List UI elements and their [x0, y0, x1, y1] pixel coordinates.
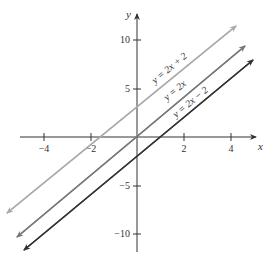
y-axis: 10 5 −5 −10 y — [114, 8, 141, 252]
y-tick-label: −10 — [114, 228, 130, 239]
x-tick-label: −4 — [39, 143, 50, 154]
y-tick-label: 10 — [120, 34, 130, 45]
x-axis-label: x — [257, 140, 263, 152]
line-y-2x — [17, 46, 245, 237]
y-tick-label: 5 — [125, 83, 130, 94]
chart-canvas: −4 −2 2 4 x 10 5 −5 −10 y y = 2x + 2 y =… — [0, 0, 269, 257]
x-tick-label: 2 — [182, 143, 187, 154]
x-axis: −4 −2 2 4 x — [20, 133, 263, 154]
y-axis-label: y — [125, 8, 131, 20]
x-tick-label: 4 — [229, 143, 234, 154]
y-tick-label: −5 — [119, 180, 130, 191]
